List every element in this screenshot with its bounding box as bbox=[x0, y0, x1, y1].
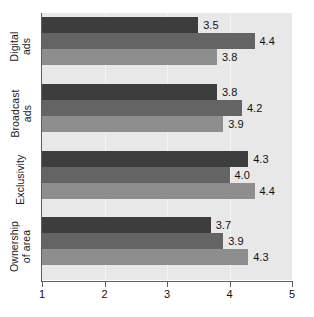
category-label-text: Exclusivity bbox=[15, 155, 27, 205]
y-axis-category-label: Exclusivity bbox=[0, 147, 42, 214]
y-axis-line bbox=[41, 13, 42, 282]
bar bbox=[42, 33, 255, 49]
category-label-line: ads bbox=[21, 31, 33, 61]
bar-value-label: 4.2 bbox=[247, 100, 262, 116]
category-label-text: Broadcastads bbox=[10, 89, 33, 137]
bar bbox=[42, 100, 242, 116]
bar-value-label: 4.0 bbox=[235, 167, 250, 183]
x-axis-tick-label: 4 bbox=[226, 288, 232, 300]
x-axis-tick-label: 1 bbox=[39, 288, 45, 300]
bar bbox=[42, 49, 217, 65]
y-axis-category-label: Digitalads bbox=[0, 13, 42, 80]
x-axis-tick-label: 5 bbox=[289, 288, 295, 300]
bar bbox=[42, 84, 217, 100]
bar-value-label: 4.3 bbox=[253, 151, 268, 167]
bar bbox=[42, 167, 230, 183]
bar bbox=[42, 249, 248, 265]
x-axis-tick bbox=[105, 282, 106, 287]
bar bbox=[42, 233, 223, 249]
bar-value-label: 3.5 bbox=[203, 17, 218, 33]
y-axis-category-labels: DigitaladsBroadcastadsExclusivityOwnersh… bbox=[0, 13, 42, 280]
bar-value-label: 3.8 bbox=[222, 49, 237, 65]
bar-value-label: 4.3 bbox=[253, 249, 268, 265]
x-axis-tick bbox=[292, 282, 293, 287]
bar bbox=[42, 17, 198, 33]
bar-chart: DigitaladsBroadcastadsExclusivityOwnersh… bbox=[0, 0, 314, 317]
bar bbox=[42, 116, 223, 132]
x-axis-tick-label: 3 bbox=[164, 288, 170, 300]
category-label-line: Digital bbox=[9, 31, 21, 61]
y-axis-category-label: Broadcastads bbox=[0, 80, 42, 147]
category-label-text: Ownershipof area bbox=[10, 221, 33, 272]
category-label-line: Exclusivity bbox=[15, 155, 27, 205]
bar bbox=[42, 183, 255, 199]
bar-value-label: 3.7 bbox=[216, 217, 231, 233]
category-label-text: Digitalads bbox=[9, 31, 32, 61]
bar-value-label: 3.9 bbox=[228, 233, 243, 249]
category-label-line: ads bbox=[21, 89, 33, 137]
y-axis-category-label: Ownershipof area bbox=[0, 213, 42, 280]
bar-value-label: 3.9 bbox=[228, 116, 243, 132]
x-axis-tick-label: 2 bbox=[101, 288, 107, 300]
bar-value-label: 4.4 bbox=[260, 33, 275, 49]
x-axis-tick bbox=[167, 282, 168, 287]
category-label-line: Broadcast bbox=[10, 89, 22, 137]
category-label-line: of area bbox=[21, 221, 33, 272]
plot-area: 3.54.43.83.84.23.94.34.04.43.73.94.3 bbox=[42, 13, 292, 280]
x-axis-tick bbox=[42, 282, 43, 287]
bar bbox=[42, 217, 211, 233]
x-axis-tick bbox=[230, 282, 231, 287]
bar-value-label: 4.4 bbox=[260, 183, 275, 199]
bar bbox=[42, 151, 248, 167]
bar-value-label: 3.8 bbox=[222, 84, 237, 100]
